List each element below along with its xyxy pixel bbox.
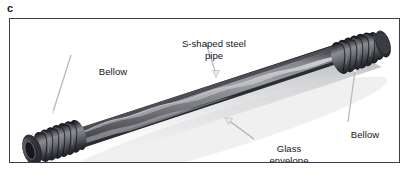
illustration-frame: S-shaped steel pipe Bellow Bellow Glass … [9,18,400,163]
figure-root: c [0,0,414,176]
panel-letter: c [7,2,13,14]
evacuated-tube-illustration [10,19,399,162]
